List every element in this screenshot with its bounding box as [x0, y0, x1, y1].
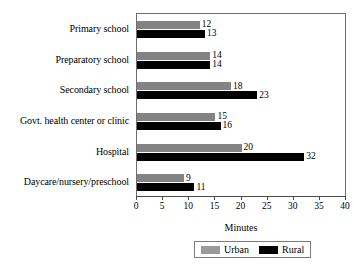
category-label: Primary school — [0, 23, 129, 34]
chart-legend: UrbanRural — [194, 241, 311, 258]
category-label: Preparatory school — [0, 54, 129, 65]
bar-rural-5 — [137, 183, 194, 191]
x-axis-tick-label: 20 — [229, 201, 253, 211]
bar-urban-5 — [137, 174, 184, 182]
x-axis-tick — [214, 196, 215, 200]
bar-urban-4 — [137, 144, 242, 152]
bar-urban-3 — [137, 113, 215, 121]
x-axis-tick — [293, 196, 294, 200]
x-axis-title: Minutes — [136, 222, 346, 234]
x-axis-tick — [162, 196, 163, 200]
category-label: Daycare/nursery/preschool — [0, 176, 129, 187]
bar-value-label: 9 — [186, 174, 191, 183]
bar-rural-2 — [137, 91, 257, 99]
category-label: Govt. health center or clinic — [0, 115, 129, 126]
category-axis-labels: Primary schoolPreparatory schoolSecondar… — [0, 13, 133, 197]
bar-value-label: 32 — [306, 152, 316, 161]
legend-label: Urban — [224, 244, 249, 255]
x-axis-tick — [136, 196, 137, 200]
bar-chart-figure: Primary schoolPreparatory schoolSecondar… — [0, 0, 363, 268]
x-axis-tick-label: 30 — [281, 201, 305, 211]
bar-value-label: 20 — [244, 143, 254, 152]
bar-value-label: 18 — [233, 82, 243, 91]
bar-urban-2 — [137, 82, 231, 90]
x-axis-tick-label: 25 — [255, 201, 279, 211]
bar-value-label: 23 — [259, 91, 269, 100]
plot-area: 12131414182315162032911 — [136, 13, 346, 197]
bar-value-label: 16 — [223, 121, 233, 130]
legend-label: Rural — [282, 244, 304, 255]
urban-swatch — [201, 246, 220, 254]
x-axis-tick — [188, 196, 189, 200]
x-axis-tick — [345, 196, 346, 200]
x-axis-tick-label: 40 — [333, 201, 357, 211]
bar-rural-3 — [137, 122, 221, 130]
category-label: Secondary school — [0, 84, 129, 95]
legend-entry-rural: Rural — [259, 244, 304, 255]
bar-urban-1 — [137, 52, 210, 60]
bar-rural-4 — [137, 153, 304, 161]
x-axis-tick-label: 15 — [202, 201, 226, 211]
x-axis-tick — [267, 196, 268, 200]
bar-value-label: 14 — [212, 60, 222, 69]
bar-urban-0 — [137, 21, 200, 29]
x-axis-tick — [241, 196, 242, 200]
bar-value-label: 13 — [207, 29, 217, 38]
rural-swatch — [259, 246, 278, 254]
bars-layer: 12131414182315162032911 — [137, 14, 345, 196]
bar-rural-0 — [137, 30, 205, 38]
x-axis-tick-label: 35 — [307, 201, 331, 211]
x-axis-tick-label: 0 — [124, 201, 148, 211]
category-label: Hospital — [0, 146, 129, 157]
x-axis-tick — [319, 196, 320, 200]
legend-entry-urban: Urban — [201, 244, 249, 255]
bar-rural-1 — [137, 61, 210, 69]
bar-value-label: 11 — [196, 183, 205, 192]
x-axis-tick-label: 5 — [150, 201, 174, 211]
x-axis-tick-label: 10 — [176, 201, 200, 211]
